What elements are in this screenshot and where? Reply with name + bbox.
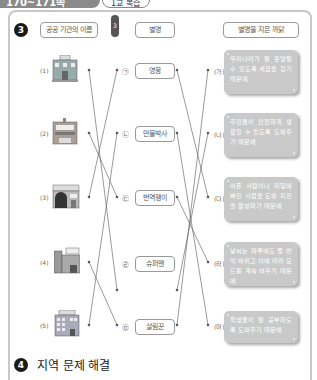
education-office-building-icon bbox=[54, 310, 80, 336]
institution-5-label: (5) bbox=[40, 322, 49, 329]
police-station-building-icon bbox=[54, 247, 80, 273]
institution-2-label: (2) bbox=[40, 130, 49, 137]
reason-card-2: 주민들이 안전하게 생활할 수 있도록 도와주기 때문에 bbox=[224, 113, 298, 157]
nickname-1-mark: ㉠ bbox=[122, 66, 129, 76]
nickname-2: 만물박사 bbox=[135, 126, 175, 142]
reason-card-1: 우리나라가 잘 운영될 수 있도록 세금을 걷기 때문에 bbox=[224, 50, 298, 94]
institution-4-label: (4) bbox=[40, 259, 49, 266]
nickname-3: 번역쟁이 bbox=[135, 190, 175, 206]
question-4-number: 4 bbox=[14, 358, 28, 372]
nickname-5-mark: ㉤ bbox=[122, 322, 129, 332]
nickname-3-mark: ㉢ bbox=[122, 193, 129, 203]
reason-card-3: 아픈 사람이나 위험에 빠진 사람을 도와 지진을 활성하기 때문에 bbox=[224, 177, 298, 221]
provincial-office-building-icon bbox=[52, 55, 78, 81]
nickname-1: 영웅 bbox=[135, 63, 175, 79]
reason-card-4: 날씨는 하루에도 몇 번씩 바뀌고 이에 따라 모드를 계속 바꾸기 때문에 bbox=[224, 242, 298, 286]
nickname-4-mark: ㉣ bbox=[122, 259, 129, 269]
institution-1-label: (1) bbox=[40, 67, 49, 74]
nickname-4: 슈퍼맨 bbox=[135, 256, 175, 272]
question-4-heading: 4 지역 문제 해결 bbox=[14, 356, 110, 373]
fire-station-building-icon bbox=[52, 182, 78, 208]
nickname-2-mark: ㉡ bbox=[122, 129, 129, 139]
museum-building-icon bbox=[52, 118, 78, 144]
nickname-5: 살림꾼 bbox=[135, 319, 175, 335]
reason-card-5: 학생들이 잘 공부하도록 도와주기 때문에 bbox=[224, 311, 298, 343]
institution-3-label: (3) bbox=[40, 194, 49, 201]
question-4-title: 지역 문제 해결 bbox=[37, 359, 111, 373]
